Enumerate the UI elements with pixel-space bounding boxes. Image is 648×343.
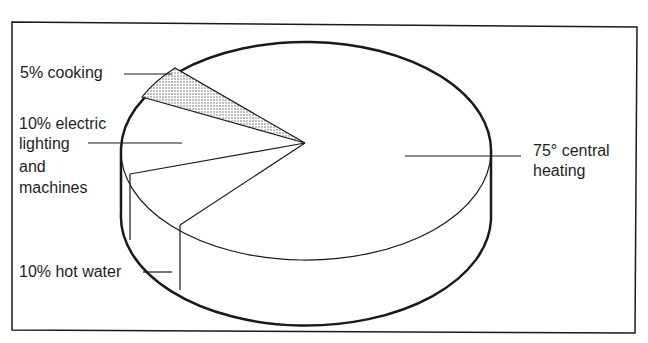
slice-boundary-lighting-hotwater [130,143,305,174]
label-lighting-line1: 10% electric [19,113,106,135]
slice-boundary-hotwater-heating [180,143,305,225]
slice-cooking [142,68,305,143]
cylinder-bottom-rim [121,213,491,326]
label-hotwater: 10% hot water [19,261,121,283]
label-lighting-line2: lighting [19,133,70,155]
label-lighting-line4: machines [19,177,87,199]
label-lighting-line3: and [19,156,46,178]
label-heating-line1: 75° central [533,140,610,162]
label-heating-line2: heating [533,160,586,182]
top-rim-front [121,148,491,260]
label-cooking: 5% cooking [20,62,103,84]
